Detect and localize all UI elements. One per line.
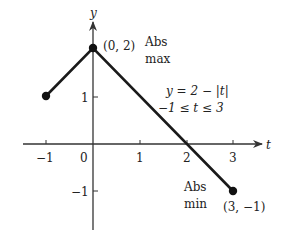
max-point-label: (0, 2) xyxy=(103,39,135,53)
abs-min-label-line1: Abs xyxy=(183,180,207,194)
min-point-label: (3, −1) xyxy=(223,200,265,214)
x-tick-label: 0 xyxy=(80,151,88,165)
min-point xyxy=(229,187,237,195)
max-point xyxy=(89,44,97,52)
x-tick-label: −1 xyxy=(36,151,54,165)
x-tick-label: 3 xyxy=(229,151,237,165)
x-tick-label: 2 xyxy=(183,151,191,165)
abs-max-label-line1: Abs xyxy=(144,35,168,49)
y-tick-label: 1 xyxy=(81,91,89,105)
function-line xyxy=(46,48,233,191)
y-tick-label: −1 xyxy=(71,185,89,199)
equation-label: y = 2 − |t| xyxy=(165,84,229,98)
y-axis-label: y xyxy=(89,6,97,20)
abs-max-label-line2: max xyxy=(145,52,171,66)
t-axis-label: t xyxy=(266,138,271,152)
endpoint-left xyxy=(42,92,50,100)
graph-canvas: y t −1 0 1 2 3 1 −1 (0, 2) Abs max y = 2… xyxy=(0,0,287,239)
x-tick-label: 1 xyxy=(136,151,144,165)
abs-min-label-line2: min xyxy=(184,197,207,211)
domain-label: −1 ≤ t ≤ 3 xyxy=(158,101,224,115)
